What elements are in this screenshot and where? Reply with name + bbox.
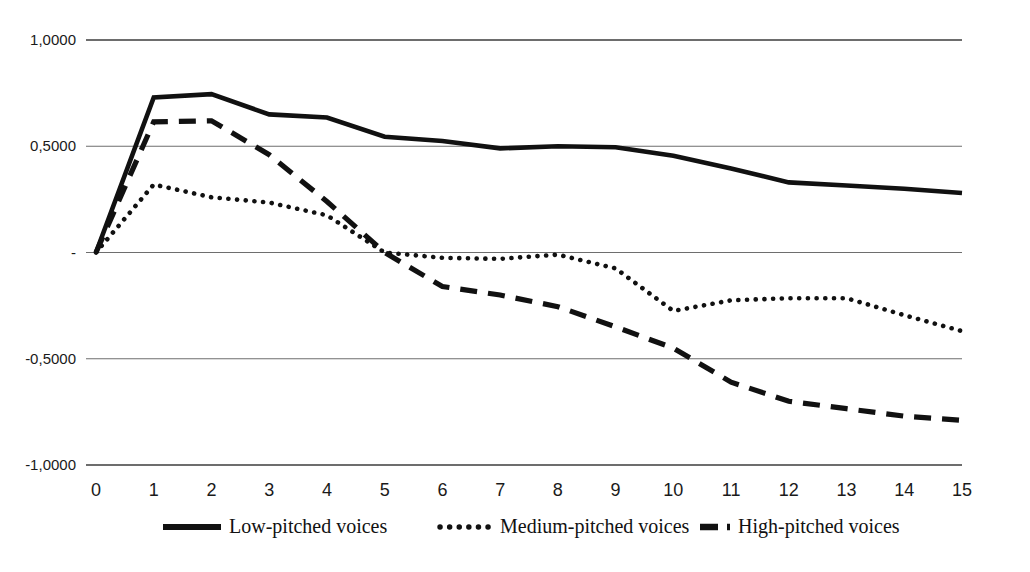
x-axis-tick-label: 14	[894, 480, 914, 500]
y-axis-tick-labels: 1,00000,5000--0,5000-1,0000	[25, 31, 76, 473]
x-axis-tick-labels: 0123456789101112131415	[91, 480, 972, 500]
chart-canvas: 1,00000,5000--0,5000-1,0000 012345678910…	[0, 0, 1030, 572]
x-axis-tick-label: 11	[722, 480, 741, 500]
x-axis-tick-label: 15	[952, 480, 972, 500]
series-lines	[96, 94, 962, 420]
x-axis-tick-label: 1	[149, 480, 159, 500]
x-axis-tick-label: 2	[206, 480, 216, 500]
x-axis-tick-label: 10	[663, 480, 683, 500]
x-axis-tick-label: 3	[264, 480, 274, 500]
x-axis-tick-label: 9	[611, 480, 621, 500]
x-axis-tick-label: 12	[779, 480, 799, 500]
x-axis-tick-label: 8	[553, 480, 563, 500]
y-gridlines	[86, 40, 962, 465]
x-axis-tick-label: 5	[380, 480, 390, 500]
series-line-dashed	[96, 121, 962, 421]
legend-item-label: Low-pitched voices	[229, 515, 387, 538]
series-line-dotted	[96, 185, 962, 332]
chart-legend: Low-pitched voicesMedium-pitched voicesH…	[163, 515, 900, 538]
line-chart: 1,00000,5000--0,5000-1,0000 012345678910…	[0, 0, 1030, 572]
y-axis-tick-label: 1,0000	[30, 31, 76, 48]
y-axis-tick-label: -	[71, 244, 76, 261]
y-axis-tick-label: -1,0000	[25, 456, 76, 473]
x-axis-tick-label: 4	[322, 480, 332, 500]
series-line-solid	[96, 94, 962, 252]
legend-item-label: High-pitched voices	[738, 515, 900, 538]
x-axis-tick-label: 0	[91, 480, 101, 500]
y-axis-tick-label: -0,5000	[25, 350, 76, 367]
x-axis-tick-label: 6	[437, 480, 447, 500]
x-axis-tick-label: 13	[837, 480, 857, 500]
legend-item-label: Medium-pitched voices	[500, 515, 690, 538]
y-axis-tick-label: 0,5000	[30, 137, 76, 154]
x-axis-tick-label: 7	[495, 480, 505, 500]
